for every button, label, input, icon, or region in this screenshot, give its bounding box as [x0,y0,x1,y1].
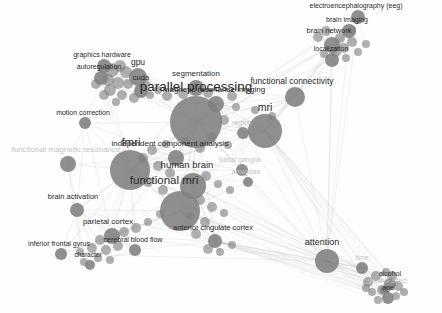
network-node-label-localization[interactable]: localization [314,44,349,51]
network-node-label-human-brain[interactable]: human brain [161,160,214,170]
network-node-label-graphics-hardware[interactable]: graphics hardware [73,50,131,57]
network-node-label-amygdala[interactable]: amygdala [232,169,260,176]
term-cooccurrence-network-map: parallel processingfunctional mrifmrimri… [0,0,442,313]
network-node-label-segmentation[interactable]: segmentation [172,70,220,78]
network-node-label-character[interactable]: character [74,252,101,259]
network-node-label-brain-activation[interactable]: brain activation [48,194,98,202]
network-node-label-parietal-cortex[interactable]: parietal cortex [83,218,133,226]
network-node-label-cuda[interactable]: cuda [133,75,149,83]
network-node-label-inferior-frontal-gyrus[interactable]: inferior frontal gyrus [28,239,90,246]
network-node-label-functional-magnetic-resonance[interactable]: functional magnetic resonance [12,146,121,154]
label-layer: parallel processingfunctional mrifmrimri… [0,0,442,313]
network-node-label-autoregulation[interactable]: autoregulation [77,62,121,69]
network-node-label-alcohol-effect[interactable]: alcohol effect [369,278,407,285]
network-node-label-functional-mri[interactable]: functional mri [130,175,198,187]
network-node-label-basal-ganglia[interactable]: basal ganglia [219,155,260,162]
network-node-label-mri[interactable]: mri [258,102,273,113]
network-node-label-anterior-cingulate-cortex[interactable]: anterior cingulate cortex [173,225,253,233]
network-node-label-brain-imaging[interactable]: brain imaging [326,15,368,22]
network-node-label-gpu[interactable]: gpu [131,57,145,66]
network-node-label-motion-correction[interactable]: motion correction [56,108,110,115]
network-node-label-time[interactable]: time [355,253,368,260]
network-node-label-cerebral-blood-flow[interactable]: cerebral blood flow [104,235,163,242]
network-node-label-magnetic-resonance-imaging[interactable]: magnetic resonance imaging [163,86,265,94]
network-node-label-independent-component-analysis[interactable]: independent component analysis [112,140,229,148]
network-node-label-brain-network[interactable]: brain network [306,28,351,36]
network-node-label-electroencephalography-eeg[interactable]: electroencephalography (eeg) [309,1,402,8]
network-node-label-attention[interactable]: attention [305,238,340,247]
network-node-label-alcohol[interactable]: alcohol [379,269,401,276]
network-node-label-functional-connectivity[interactable]: functional connectivity [250,76,333,85]
network-node-label-region[interactable]: region [232,118,251,125]
